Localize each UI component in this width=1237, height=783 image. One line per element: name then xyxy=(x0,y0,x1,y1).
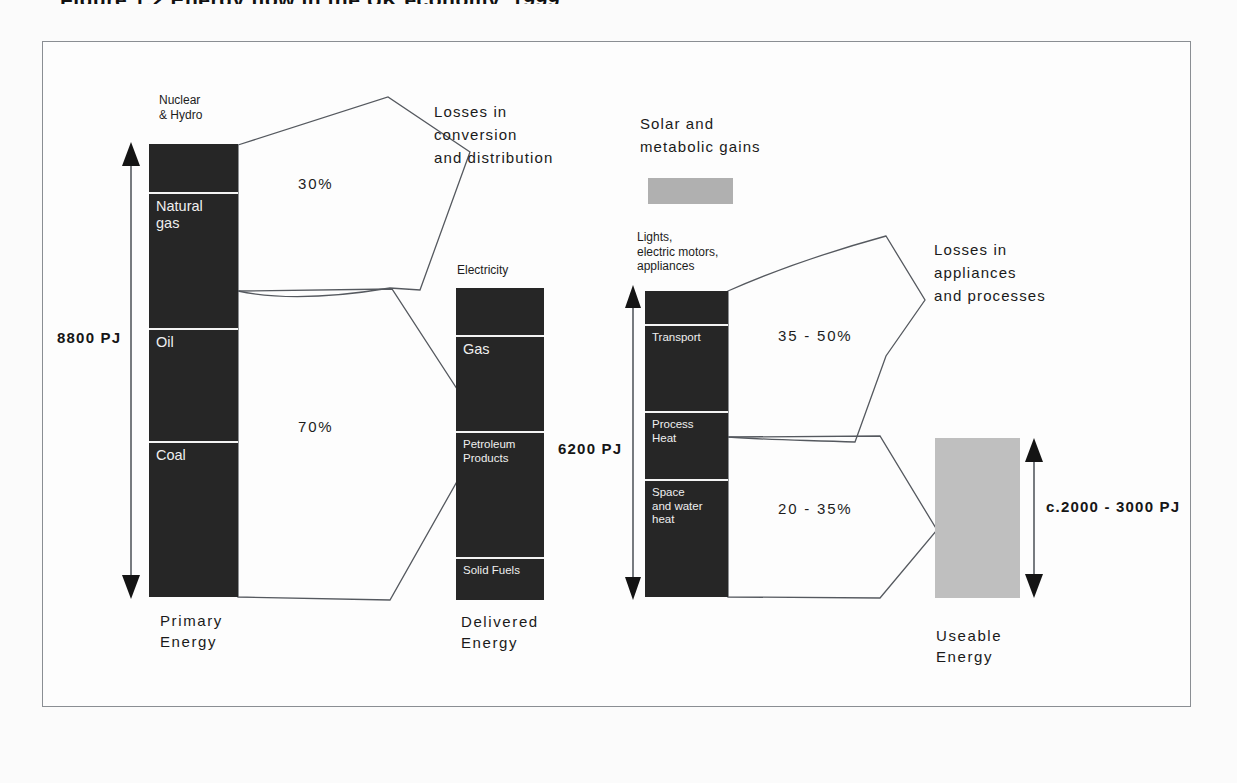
primary-segment-nuclear-hydro xyxy=(149,144,238,194)
primary-segment-coal: Coal xyxy=(149,443,238,597)
primary-top-label: Nuclear & Hydro xyxy=(159,93,202,122)
enduse-segment-space-water-heat-label: Space and water heat xyxy=(645,481,728,527)
useable-energy-box xyxy=(935,438,1020,598)
delivered-percent: 70% xyxy=(298,418,333,435)
primary-segment-nuclear-hydro-label xyxy=(149,144,238,148)
primary-scale-label: 8800 PJ xyxy=(57,329,121,346)
enduse-segment-lights-motors-appliances-label xyxy=(645,291,728,296)
delivered-segment-electricity xyxy=(456,288,544,337)
delivered-segment-petroleum-products-label: Petroleum Products xyxy=(456,433,544,465)
delivered-segment-electricity-label xyxy=(456,288,544,292)
diagram-page: Figure 1.2 Energy flow in the UK economy… xyxy=(0,0,1237,783)
enduse-segment-transport-label: Transport xyxy=(645,326,728,345)
primary-segment-coal-label: Coal xyxy=(149,443,238,464)
enduse-segment-process-heat-label: Process Heat xyxy=(645,413,728,445)
enduse-segment-lights-motors-appliances xyxy=(645,291,728,326)
gains-caption: Solar and metabolic gains xyxy=(640,112,761,158)
delivered-segment-petroleum-products: Petroleum Products xyxy=(456,433,544,559)
enduse-segment-transport: Transport xyxy=(645,326,728,413)
delivered-caption: Delivered Energy xyxy=(461,611,539,653)
appliance-loss-caption: Losses in appliances and processes xyxy=(934,238,1046,307)
delivered-scale-label: 6200 PJ xyxy=(558,440,622,457)
figure-title: Figure 1.2 Energy flow in the UK economy… xyxy=(60,0,560,4)
primary-energy-bar: Natural gas Oil Coal xyxy=(149,144,238,597)
enduse-energy-bar: Transport Process Heat Space and water h… xyxy=(645,291,728,597)
enduse-segment-process-heat: Process Heat xyxy=(645,413,728,481)
useable-caption: Useable Energy xyxy=(936,625,1002,667)
delivered-energy-bar: Gas Petroleum Products Solid Fuels xyxy=(456,288,544,600)
delivered-segment-gas: Gas xyxy=(456,337,544,433)
delivered-segment-solid-fuels-label: Solid Fuels xyxy=(456,559,544,578)
delivered-segment-gas-label: Gas xyxy=(456,337,544,358)
conversion-loss-caption: Losses in conversion and distribution xyxy=(434,100,553,169)
delivered-top-label: Electricity xyxy=(457,263,508,278)
gains-swatch xyxy=(648,178,733,204)
appliance-loss-percent: 35 - 50% xyxy=(778,327,852,344)
enduse-top-label: Lights, electric motors, appliances xyxy=(637,230,718,274)
primary-segment-natural-gas-label: Natural gas xyxy=(149,194,238,231)
primary-segment-oil: Oil xyxy=(149,330,238,443)
enduse-segment-space-water-heat: Space and water heat xyxy=(645,481,728,597)
conversion-loss-percent: 30% xyxy=(298,175,333,192)
useable-percent: 20 - 35% xyxy=(778,500,852,517)
useable-scale-label: c.2000 - 3000 PJ xyxy=(1046,498,1180,515)
primary-caption: Primary Energy xyxy=(160,610,223,652)
delivered-segment-solid-fuels: Solid Fuels xyxy=(456,559,544,600)
primary-segment-natural-gas: Natural gas xyxy=(149,194,238,330)
primary-segment-oil-label: Oil xyxy=(149,330,238,351)
